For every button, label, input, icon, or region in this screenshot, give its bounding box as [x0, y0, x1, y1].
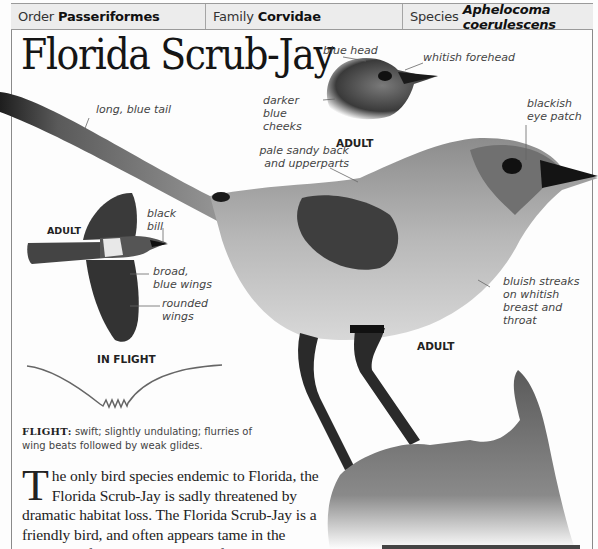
label-rounded-wings: rounded wings: [162, 297, 222, 323]
label-bluish-streaks: bluish streaks on whitish breast and thr…: [503, 275, 593, 327]
label-black-bill: black bill: [147, 207, 187, 233]
label-whitish-forehead: whitish forehead: [423, 51, 515, 64]
flight-caption: FLIGHT: swift; slightly undulating; flur…: [22, 425, 252, 453]
body-text: he only bird species endemic to Florida,…: [22, 467, 339, 549]
label-blue-head: blue head: [323, 44, 378, 57]
label-broad-blue-wings: broad, blue wings: [153, 265, 213, 291]
flight-path-diagram: [27, 365, 222, 407]
label-pale-sandy-back: pale sandy back and upperparts: [249, 144, 349, 170]
sidebar-box-top-edge: [382, 545, 580, 549]
tree-stump: [328, 370, 575, 549]
flight-inset-adult-tag: ADULT: [47, 225, 81, 236]
drop-cap: T: [22, 468, 49, 504]
label-blackish-eye-patch: blackish eye patch: [527, 97, 587, 123]
main-bird-adult-tag: ADULT: [417, 340, 454, 352]
flight-caption-label: FLIGHT:: [22, 426, 72, 437]
head-inset-illustration: [327, 58, 438, 119]
label-darker-blue-cheeks: darker blue cheeks: [263, 94, 325, 133]
body-paragraph: T he only bird species endemic to Florid…: [22, 466, 342, 549]
in-flight-heading: IN FLIGHT: [97, 353, 156, 365]
label-long-blue-tail: long, blue tail: [96, 103, 171, 116]
